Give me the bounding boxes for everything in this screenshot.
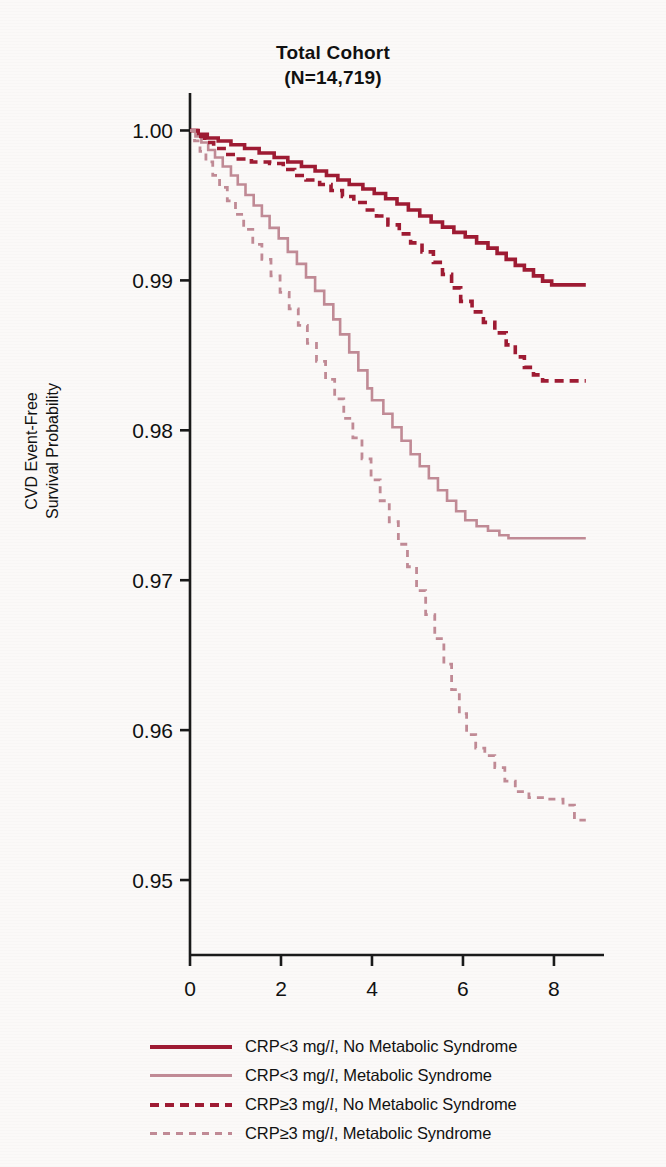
legend-item[interactable]: CRP≥3 mg/l, Metabolic Syndrome bbox=[150, 1119, 650, 1148]
y-axis-tick-label: 0.97 bbox=[132, 569, 173, 592]
x-axis-tick-label: 8 bbox=[548, 977, 560, 1000]
x-axis-tick-label: 6 bbox=[457, 977, 469, 1000]
survival-plot: 0.950.960.970.980.991.0002468 bbox=[0, 0, 666, 1000]
legend-item[interactable]: CRP<3 mg/l, No Metabolic Syndrome bbox=[150, 1032, 650, 1061]
y-axis-tick-label: 1.00 bbox=[132, 119, 173, 142]
y-axis-tick-label: 0.98 bbox=[132, 419, 173, 442]
figure-page: Total Cohort (N=14,719) CVD Event-Free S… bbox=[0, 0, 666, 1167]
legend-label: CRP≥3 mg/l, No Metabolic Syndrome bbox=[245, 1095, 517, 1115]
legend-item[interactable]: CRP<3 mg/l, Metabolic Syndrome bbox=[150, 1061, 650, 1090]
x-axis-tick-label: 2 bbox=[275, 977, 287, 1000]
y-axis-tick-label: 0.95 bbox=[132, 869, 173, 892]
legend-key-solid-dark bbox=[150, 1045, 232, 1049]
x-axis-tick-label: 4 bbox=[366, 977, 378, 1000]
series-line-2 bbox=[190, 130, 586, 380]
legend: CRP<3 mg/l, No Metabolic Syndrome CRP<3 … bbox=[150, 1032, 650, 1148]
y-axis-tick-label: 0.96 bbox=[132, 719, 173, 742]
series-line-3 bbox=[190, 130, 586, 820]
series-layer bbox=[190, 130, 586, 820]
legend-item[interactable]: CRP≥3 mg/l, No Metabolic Syndrome bbox=[150, 1090, 650, 1119]
series-line-1 bbox=[190, 130, 586, 538]
legend-key-dashed-light bbox=[150, 1132, 232, 1135]
legend-label: CRP<3 mg/l, No Metabolic Syndrome bbox=[245, 1037, 517, 1057]
legend-key-solid-light bbox=[150, 1074, 232, 1077]
legend-key-dashed-dark bbox=[150, 1103, 232, 1107]
x-axis-tick-label: 0 bbox=[184, 977, 196, 1000]
legend-label: CRP≥3 mg/l, Metabolic Syndrome bbox=[245, 1124, 491, 1144]
axes: 0.950.960.970.980.991.0002468 bbox=[132, 93, 604, 1000]
series-line-0 bbox=[190, 130, 586, 284]
legend-label: CRP<3 mg/l, Metabolic Syndrome bbox=[245, 1066, 492, 1086]
y-axis-tick-label: 0.99 bbox=[132, 269, 173, 292]
